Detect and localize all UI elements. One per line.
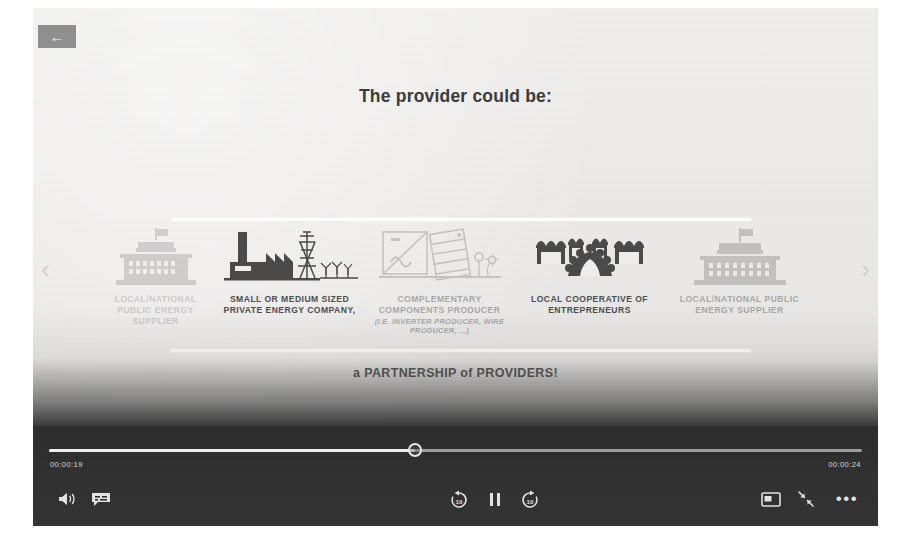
more-options-button[interactable]: ••• (836, 488, 858, 510)
government-building-icon (110, 226, 202, 286)
factory-powerline-icon (220, 226, 360, 286)
svg-text:10: 10 (456, 497, 463, 504)
carousel-item-label: SMALL OR MEDIUM SIZED PRIVATE ENERGY COM… (219, 294, 361, 316)
carousel-item-public-energy-supplier-offscreen[interactable]: LOCAL/NATIONAL PUBLIC ENERGY SUPPLIER (97, 226, 215, 327)
pause-icon-bar2 (497, 493, 500, 506)
partnership-text: PARTNERSHIP of PROVIDERS! (364, 366, 558, 380)
duration-time: 00:00:24 (828, 460, 861, 469)
svg-text:10: 10 (527, 497, 534, 504)
partnership-note: a PARTNERSHIP of PROVIDERS! (33, 366, 878, 380)
divider-bottom (171, 349, 751, 352)
forward-10-button[interactable]: 10 (519, 488, 541, 510)
video-player[interactable]: The provider could be: ‹ › (33, 8, 878, 526)
slide-canvas: The provider could be: ‹ › (33, 8, 878, 428)
carousel-item-complementary-components-producer[interactable]: COMPLEMENTARY COMPONENTS PRODUCER (i.e. … (365, 226, 515, 336)
carousel-item-label: COMPLEMENTARY COMPONENTS PRODUCER (i.e. … (369, 294, 511, 336)
solar-panel-inverter-icon (375, 226, 505, 286)
carousel-item-local-cooperative[interactable]: LOCAL COOPERATIVE OF ENTREPRENEURS (515, 226, 665, 316)
exit-fullscreen-button[interactable] (796, 488, 816, 510)
divider-top (171, 218, 751, 221)
carousel-item-caption-sub: (i.e. INVERTER PRODUCER, WIRE PRODUCER, … (369, 317, 511, 336)
picture-in-picture-button[interactable] (760, 488, 782, 510)
page-title: The provider could be: (33, 86, 878, 107)
seek-bar-handle[interactable] (408, 443, 422, 457)
carousel-item-caption-main: COMPLEMENTARY COMPONENTS PRODUCER (379, 294, 501, 315)
carousel-item-label: LOCAL/NATIONAL PUBLIC ENERGY SUPPLIER (101, 294, 211, 327)
back-button[interactable]: ← (38, 25, 76, 48)
provider-carousel[interactable]: LOCAL/NATIONAL PUBLIC ENERGY SUPPLIER (33, 226, 878, 344)
government-building-icon (688, 226, 792, 286)
rewind-10-button[interactable]: 10 (448, 488, 470, 510)
captions-button[interactable] (90, 488, 112, 510)
carousel-item-public-energy-supplier[interactable]: LOCAL/NATIONAL PUBLIC ENERGY SUPPLIER (665, 226, 815, 316)
carousel-item-label: LOCAL COOPERATIVE OF ENTREPRENEURS (519, 294, 661, 316)
player-controls[interactable]: 00:00:19 00:00:24 (33, 426, 878, 526)
carousel-item-private-energy-company[interactable]: SMALL OR MEDIUM SIZED PRIVATE ENERGY COM… (215, 226, 365, 316)
market-stalls-people-icon (530, 226, 650, 286)
pause-icon (490, 493, 493, 506)
seek-bar[interactable] (49, 449, 862, 452)
volume-button[interactable] (56, 488, 78, 510)
carousel-item-label: LOCAL/NATIONAL PUBLIC ENERGY SUPPLIER (669, 294, 811, 316)
play-pause-button[interactable] (487, 488, 503, 510)
current-time: 00:00:19 (50, 460, 83, 469)
seek-bar-progress (49, 449, 415, 452)
partnership-prefix: a (353, 366, 364, 380)
